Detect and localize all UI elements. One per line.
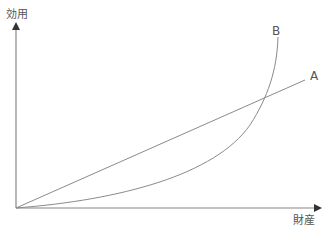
curve-a-label: A [310, 70, 318, 82]
curve-a [16, 80, 305, 208]
curve-b [16, 37, 278, 208]
utility-diagram: 効用 財産 B A [0, 0, 328, 230]
curve-b-label: B [272, 25, 280, 37]
y-axis-label: 効用 [6, 9, 28, 20]
x-axis-label: 財産 [293, 215, 315, 226]
